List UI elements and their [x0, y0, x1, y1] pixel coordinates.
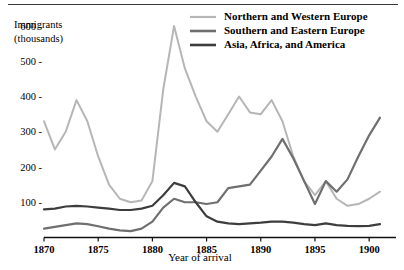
- legend-label-2: Asia, Africa, and America: [224, 38, 346, 50]
- y-tick-label: 600 -: [20, 21, 42, 32]
- y-axis-title-line2: (thousands): [14, 33, 63, 45]
- series-line-0: [44, 26, 380, 206]
- series-line-1: [44, 118, 380, 231]
- chart-canvas: Northern and Western EuropeSouthern and …: [0, 0, 404, 270]
- chart-legend: Northern and Western EuropeSouthern and …: [190, 10, 368, 50]
- x-tick-label: 1895: [304, 244, 325, 255]
- y-tick-label: 300 -: [20, 126, 42, 137]
- legend-label-0: Northern and Western Europe: [224, 10, 368, 22]
- x-tick-label: 1900: [359, 244, 380, 255]
- y-tick-label: 400 -: [20, 91, 42, 102]
- y-tick-label: 200 -: [20, 162, 42, 173]
- data-series-group: [44, 26, 380, 231]
- series-line-2: [44, 183, 380, 226]
- y-axis-ticks: 100 -200 -300 -400 -500 -600 -: [20, 21, 42, 208]
- legend-label-1: Southern and Eastern Europe: [224, 24, 365, 36]
- y-tick-label: 100 -: [20, 197, 42, 208]
- x-tick-label: 1875: [88, 244, 109, 255]
- x-tick-label: 1890: [250, 244, 271, 255]
- y-tick-label: 500 -: [20, 56, 42, 67]
- x-axis-title: Year of arrival: [168, 251, 232, 263]
- x-tick-label: 1880: [142, 244, 163, 255]
- x-tick-label: 1870: [34, 244, 55, 255]
- immigration-line-chart: Northern and Western EuropeSouthern and …: [0, 0, 404, 270]
